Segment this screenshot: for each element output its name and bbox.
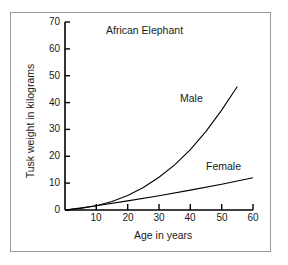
y-tick-label-70: 70 xyxy=(38,16,60,27)
y-tick-label-40: 40 xyxy=(38,97,60,108)
x-axis-ticks xyxy=(96,204,253,210)
x-axis-title: Age in years xyxy=(134,229,192,241)
y-tick-label-60: 60 xyxy=(38,43,60,54)
y-tick-label-50: 50 xyxy=(38,70,60,81)
y-tick-label-10: 10 xyxy=(38,177,60,188)
x-tick-label-40: 40 xyxy=(180,212,200,223)
y-axis-title: Tusk weight in kilograms xyxy=(24,56,36,186)
y-tick-label-20: 20 xyxy=(38,150,60,161)
y-tick-label-30: 30 xyxy=(38,123,60,134)
series-label-male: Male xyxy=(180,92,203,104)
y-tick-label-0: 0 xyxy=(38,204,60,215)
series-label-female: Female xyxy=(206,160,241,172)
x-tick-label-50: 50 xyxy=(212,212,232,223)
chart-title: African Elephant xyxy=(106,24,183,36)
x-tick-label-20: 20 xyxy=(118,212,138,223)
x-tick-label-30: 30 xyxy=(149,212,169,223)
x-tick-label-10: 10 xyxy=(86,212,106,223)
x-tick-label-60: 60 xyxy=(243,212,263,223)
series-line-male xyxy=(65,86,237,210)
